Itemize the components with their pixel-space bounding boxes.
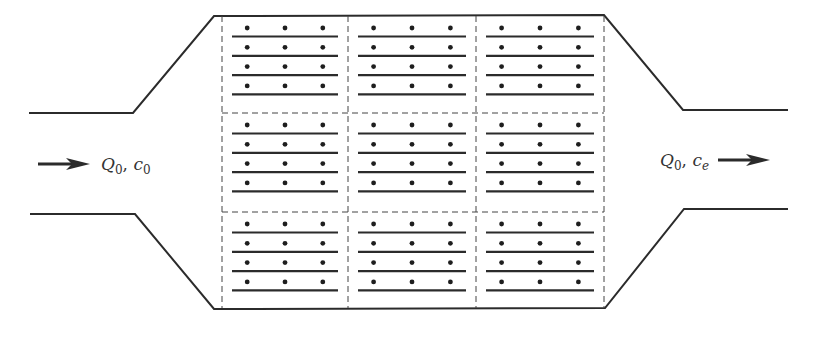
particle-dot — [283, 222, 288, 227]
particle-dot — [576, 222, 581, 227]
particle-dot — [576, 26, 581, 31]
particle-dot — [499, 241, 504, 246]
particle-dot — [283, 142, 288, 147]
particle-dot — [410, 161, 415, 166]
particle-dot — [576, 181, 581, 186]
lower-wall — [30, 209, 788, 309]
particle-dot — [576, 64, 581, 69]
particle-dot — [245, 26, 250, 31]
inlet-flow: Q0, c0 — [38, 154, 151, 177]
particle-dot — [499, 222, 504, 227]
particle-dot — [538, 123, 543, 128]
particle-dot — [576, 45, 581, 50]
particle-dot — [499, 45, 504, 50]
particle-dot — [576, 142, 581, 147]
particle-dot — [499, 142, 504, 147]
particle-dot — [245, 222, 250, 227]
particle-dot — [371, 84, 376, 89]
particle-dot — [448, 260, 453, 265]
particle-dot — [283, 260, 288, 265]
particle-dot — [320, 123, 325, 128]
particle-dot — [410, 181, 415, 186]
particle-dot — [320, 280, 325, 285]
particle-dot — [538, 84, 543, 89]
particle-dot — [499, 123, 504, 128]
particle-dot — [448, 45, 453, 50]
inlet-label: Q0, c0 — [101, 154, 151, 177]
particle-dot — [410, 45, 415, 50]
particle-dot — [538, 260, 543, 265]
particle-dot — [538, 45, 543, 50]
particle-dot — [283, 45, 288, 50]
particle-dot — [320, 161, 325, 166]
outlet-label: Q0, ce — [660, 150, 709, 173]
particle-dot — [283, 280, 288, 285]
particle-dot — [371, 222, 376, 227]
particle-dot — [448, 84, 453, 89]
particle-dot — [245, 161, 250, 166]
particle-dot — [499, 280, 504, 285]
particle-dot — [410, 142, 415, 147]
collector-cell — [232, 26, 338, 95]
particle-dot — [371, 64, 376, 69]
particle-dot — [371, 241, 376, 246]
particle-dot — [410, 84, 415, 89]
particle-dot — [448, 181, 453, 186]
particle-dot — [371, 260, 376, 265]
particle-dot — [576, 161, 581, 166]
particle-dot — [245, 123, 250, 128]
particle-dot — [371, 142, 376, 147]
particle-dot — [371, 123, 376, 128]
particle-dot — [410, 222, 415, 227]
particle-dot — [448, 222, 453, 227]
particle-dot — [320, 142, 325, 147]
particle-dot — [538, 26, 543, 31]
particle-dot — [245, 260, 250, 265]
particle-dot — [371, 161, 376, 166]
particle-dot — [448, 280, 453, 285]
particle-dot — [538, 181, 543, 186]
collector-cell — [358, 123, 466, 192]
collector-cell — [486, 123, 594, 192]
particle-dot — [410, 64, 415, 69]
particle-dot — [538, 241, 543, 246]
collector-cell — [232, 222, 338, 291]
particle-dot — [371, 45, 376, 50]
particle-dot — [538, 161, 543, 166]
particle-dot — [371, 26, 376, 31]
particle-dot — [538, 142, 543, 147]
particle-dot — [576, 84, 581, 89]
particle-dot — [538, 280, 543, 285]
particle-dot — [410, 280, 415, 285]
particle-dot — [283, 241, 288, 246]
particle-dot — [410, 241, 415, 246]
particle-dot — [538, 222, 543, 227]
particle-dot — [245, 241, 250, 246]
particle-dot — [499, 26, 504, 31]
particle-dot — [283, 123, 288, 128]
particle-dot — [576, 260, 581, 265]
particle-dot — [320, 181, 325, 186]
particle-dot — [499, 260, 504, 265]
particle-dot — [320, 64, 325, 69]
particle-dot — [283, 64, 288, 69]
particle-dot — [320, 260, 325, 265]
collector-cells — [232, 26, 594, 291]
particle-dot — [371, 181, 376, 186]
particle-dot — [448, 64, 453, 69]
particle-dot — [371, 280, 376, 285]
particle-dot — [448, 26, 453, 31]
particle-dot — [576, 123, 581, 128]
particle-dot — [448, 241, 453, 246]
collector-cell — [358, 222, 466, 291]
particle-dot — [410, 123, 415, 128]
particle-dot — [499, 64, 504, 69]
particle-dot — [283, 84, 288, 89]
particle-dot — [499, 161, 504, 166]
particle-dot — [576, 241, 581, 246]
collector-cell — [486, 26, 594, 95]
outlet-flow: Q0, ce — [660, 150, 770, 173]
settling-chamber-diagram: Q0, c0 Q0, ce — [0, 0, 818, 337]
particle-dot — [245, 142, 250, 147]
particle-dot — [283, 26, 288, 31]
